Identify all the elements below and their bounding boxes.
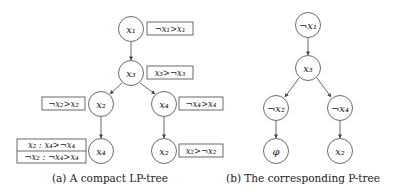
- node-x2-bottom: x₂: [152, 139, 177, 164]
- p-tree: ¬x₁ x₃ ¬x₂ ¬x₄ φ x₂ (b) The correspondin…: [226, 13, 380, 185]
- node-x2: x₂: [89, 92, 114, 117]
- cpt-text: x₃>¬x₃: [155, 68, 186, 78]
- cpt-text: ¬x₄>x₄: [186, 99, 217, 109]
- node-x2: x₂: [328, 139, 353, 164]
- node-label: x₃: [303, 63, 313, 74]
- node-not-x1: ¬x₁: [296, 13, 321, 38]
- node-label: ¬x₁: [299, 20, 317, 31]
- cpt-x1: ¬x₁>x₁: [147, 22, 193, 35]
- cpt-x4: ¬x₄>x₄: [179, 97, 223, 110]
- edge-x3-x4: [140, 83, 155, 94]
- edge-x3-x2: [110, 83, 122, 94]
- node-not-x4: ¬x₄: [328, 96, 353, 121]
- node-label: x₄: [96, 146, 106, 157]
- node-x3: x₃: [296, 56, 321, 81]
- node-x3: x₃: [119, 61, 144, 86]
- caption-b: (b) The corresponding P-tree: [226, 172, 380, 184]
- cpt-row: x₂ : x₄>¬x₄: [28, 140, 76, 150]
- node-x4-bottom: x₄: [89, 139, 114, 164]
- node-phi: φ: [264, 139, 289, 164]
- node-label: x₂: [96, 99, 106, 110]
- cpt-text: ¬x₂>x₂: [48, 99, 79, 109]
- node-x1: x₁: [119, 17, 144, 42]
- cpt-x4-bottom: x₂ : x₄>¬x₄ ¬x₂ : ¬x₄>x₄: [17, 139, 86, 163]
- node-not-x2: ¬x₂: [264, 96, 289, 121]
- node-x4: x₄: [152, 92, 177, 117]
- cpt-text: ¬x₁>x₁: [155, 24, 186, 34]
- lp-tree: x₁ x₃ x₂ x₄ x₄ x₂ ¬x₁>x₁ x₃>¬x₃: [17, 17, 223, 185]
- edge-n3-n2: [285, 78, 299, 97]
- cpt-x2: ¬x₂>x₂: [42, 97, 85, 110]
- edge-n3-n4: [317, 78, 331, 97]
- node-label: ¬x₄: [331, 103, 349, 114]
- cpt-x3: x₃>¬x₃: [147, 66, 193, 79]
- lp-tree-figure: x₁ x₃ x₂ x₄ x₄ x₂ ¬x₁>x₁ x₃>¬x₃: [0, 0, 399, 195]
- cpt-x2-bottom: x₂>¬x₂: [179, 144, 223, 157]
- cpt-row: ¬x₂ : ¬x₄>x₄: [24, 152, 79, 162]
- node-label: x₂: [335, 146, 345, 157]
- caption-a: (a) A compact LP-tree: [52, 172, 168, 184]
- node-label: x₄: [159, 99, 169, 110]
- node-label: ¬x₂: [267, 103, 285, 114]
- node-label: x₃: [126, 68, 136, 79]
- node-label: φ: [272, 146, 279, 157]
- node-label: x₁: [126, 24, 136, 35]
- node-label: x₂: [159, 146, 169, 157]
- cpt-text: x₂>¬x₂: [186, 146, 217, 156]
